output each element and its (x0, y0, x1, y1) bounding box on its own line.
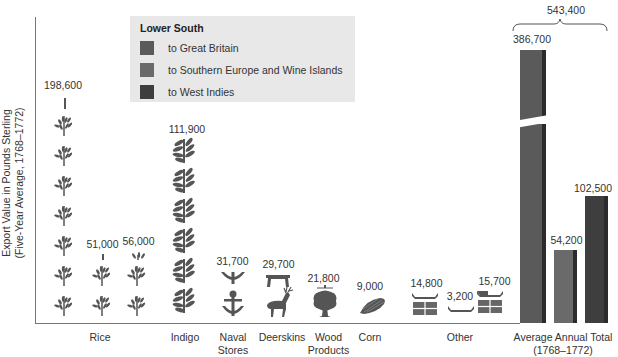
value-rice-great-britain: 198,600 (38, 79, 88, 91)
deer-icon (264, 273, 294, 321)
tree-icon (311, 285, 339, 321)
category-wood-products-line1: Wood (301, 331, 356, 344)
category-wood-products-line2: Products (301, 344, 356, 357)
value-other-southern-europe: 3,200 (440, 290, 480, 302)
category-wood-products: Wood Products (301, 331, 356, 357)
bar-total-southern-europe (554, 250, 573, 323)
category-naval-stores: Naval Stores (208, 331, 258, 357)
indigo-leaf-icon (172, 137, 198, 317)
legend-title: Lower South (140, 22, 204, 34)
value-total-all: 543,400 (541, 4, 591, 16)
bar-total-great-britain-top (520, 50, 542, 122)
category-naval-stores-line1: Naval (208, 331, 258, 344)
category-corn: Corn (350, 331, 390, 344)
bar-total-great-britain-bottom (520, 124, 542, 323)
rice-icon (90, 252, 116, 324)
category-average-annual-total: Average Annual Total (1768–1772) (503, 331, 618, 357)
y-axis (35, 17, 36, 324)
y-axis-label-line1: Export Value in Pounds Sterling (0, 78, 13, 288)
value-other-west-indies: 15,700 (472, 275, 517, 287)
value-other-great-britain: 14,800 (404, 277, 449, 289)
y-axis-label-line2: (Five-Year Average, 1768–1772) (13, 78, 26, 288)
legend-label-southern-europe: to Southern Europe and Wine Islands (168, 64, 343, 76)
value-total-great-britain: 386,700 (507, 33, 557, 45)
rice-icon (52, 95, 78, 325)
category-rice: Rice (70, 331, 130, 344)
value-corn: 9,000 (350, 280, 390, 292)
bar-total-west-indies (585, 196, 604, 323)
rice-icon (125, 250, 151, 324)
crate-icon (411, 291, 439, 317)
value-total-southern-europe: 54,200 (544, 234, 589, 246)
legend-swatch-west-indies (140, 85, 154, 99)
value-rice-west-indies: 56,000 (116, 235, 161, 247)
corn-icon (358, 296, 388, 316)
value-deerskins: 29,700 (256, 258, 301, 270)
y-axis-label: Export Value in Pounds Sterling (Five-Ye… (0, 78, 26, 288)
category-other: Other (435, 331, 485, 344)
bowl-icon (447, 304, 475, 314)
category-total-line2: (1768–1772) (503, 344, 618, 357)
value-wood-products: 21,800 (301, 272, 346, 284)
category-total-line1: Average Annual Total (503, 331, 618, 344)
value-indigo: 111,900 (162, 123, 212, 135)
category-indigo: Indigo (160, 331, 210, 344)
category-naval-stores-line2: Stores (208, 344, 258, 357)
legend-label-west-indies: to West Indies (168, 86, 234, 98)
legend-swatch-southern-europe (140, 63, 154, 77)
legend-swatch-great-britain (140, 41, 154, 55)
legend-label-great-britain: to Great Britain (168, 42, 239, 54)
value-naval-stores: 31,700 (210, 255, 255, 267)
crate-icon (476, 289, 504, 315)
anchor-icon (219, 270, 247, 320)
legend: Lower South to Great Britain to Southern… (130, 16, 355, 102)
value-total-west-indies: 102,500 (568, 182, 618, 194)
